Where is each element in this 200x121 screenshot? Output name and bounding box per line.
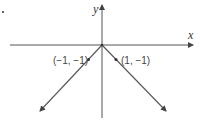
bullet-dot (2, 11, 4, 13)
y-axis-label: y (92, 2, 99, 16)
graph-canvas: x y (−1, −1) (1, −1) (0, 0, 200, 121)
x-axis-label: x (187, 28, 194, 42)
point-right (115, 58, 118, 61)
origin-point (101, 44, 104, 47)
point-right-label: (1, −1) (121, 55, 150, 66)
point-left-label: (−1, −1) (53, 55, 88, 66)
